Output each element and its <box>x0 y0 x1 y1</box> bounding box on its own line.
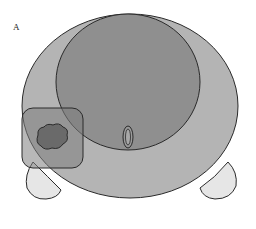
diagram-canvas <box>0 0 256 229</box>
small-oval-inner <box>126 129 131 145</box>
